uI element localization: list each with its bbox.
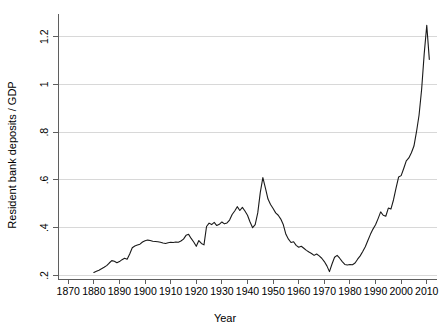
x-tick-label: 1940 [236,285,260,297]
x-tickmarks [68,279,427,284]
x-tick-label: 1900 [133,285,157,297]
x-tick-label: 1960 [287,285,311,297]
y-tickmarks [53,37,58,276]
x-tick-label: 2010 [415,285,439,297]
axis-lines [58,14,437,279]
x-tick-labels: 1870188018901900191019201930194019501960… [57,285,439,297]
x-tick-label: 2000 [389,285,413,297]
y-axis-title: Resident bank deposits / GDP [6,81,18,228]
x-tick-label: 1930 [210,285,234,297]
y-tick-label: .4 [38,223,50,232]
y-tick-label: 1.2 [38,29,50,44]
x-tick-label: 1890 [108,285,132,297]
gridlines [58,37,437,276]
y-tick-labels: .2.4.6.811.2 [38,29,50,280]
x-tick-label: 1920 [185,285,209,297]
y-tick-label: 1 [38,81,50,87]
y-tick-label: .6 [38,175,50,184]
x-tick-label: 1950 [261,285,285,297]
data-series-line [94,25,429,272]
line-chart: 1870188018901900191019201930194019501960… [0,0,444,331]
x-tick-label: 1990 [364,285,388,297]
x-tick-label: 1970 [313,285,337,297]
x-tick-label: 1880 [82,285,106,297]
x-tick-label: 1870 [57,285,81,297]
x-tick-label: 1980 [338,285,362,297]
x-axis-title: Year [214,312,237,324]
y-tick-label: .8 [38,128,50,137]
x-tick-label: 1910 [159,285,183,297]
chart-container: 1870188018901900191019201930194019501960… [0,0,444,331]
y-tick-label: .2 [38,271,50,280]
